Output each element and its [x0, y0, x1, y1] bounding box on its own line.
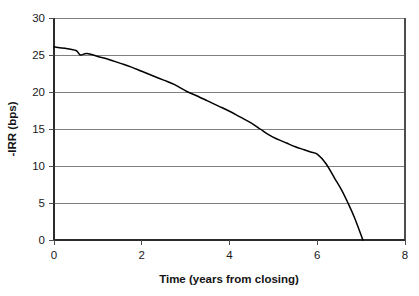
x-tick-label-4: 4 [226, 249, 233, 261]
y-tick-label-10: 10 [32, 160, 45, 172]
y-tick-label-15: 15 [32, 123, 45, 135]
x-tick-label-2: 2 [139, 249, 145, 261]
y-tick-labels: 30 25 20 15 10 5 0 [32, 12, 45, 246]
y-axis-title: -IRR (bps) [6, 101, 18, 156]
y-tick-label-20: 20 [32, 86, 45, 98]
x-tick-label-8: 8 [402, 249, 408, 261]
x-tick-label-0: 0 [51, 249, 57, 261]
y-tick-label-25: 25 [32, 49, 45, 61]
line-chart: 30 25 20 15 10 5 0 0 2 4 6 8 Time (years… [0, 0, 419, 296]
y-tick-marks [49, 18, 54, 240]
y-tick-label-0: 0 [39, 234, 45, 246]
y-tick-label-30: 30 [32, 12, 45, 24]
x-axis-title: Time (years from closing) [159, 273, 299, 285]
x-tick-marks [54, 240, 405, 245]
y-tick-label-5: 5 [39, 197, 45, 209]
x-tick-label-6: 6 [314, 249, 320, 261]
x-tick-labels: 0 2 4 6 8 [51, 249, 408, 261]
chart-container: 30 25 20 15 10 5 0 0 2 4 6 8 Time (years… [0, 0, 419, 296]
